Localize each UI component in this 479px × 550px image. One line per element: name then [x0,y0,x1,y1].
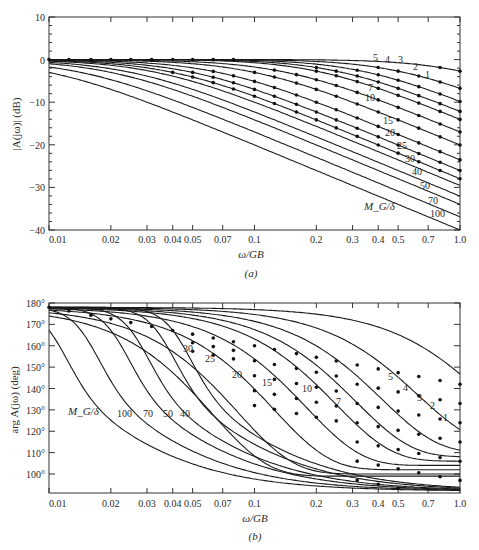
x-tick-label: 0.4 [372,498,385,509]
x-tick-label: 0.4 [372,234,385,245]
curve-b-5 [49,308,460,461]
series-label-b: 40 [180,408,190,419]
series-label-a: 10 [365,92,375,103]
series-label-b: 30 [183,343,193,354]
x-tick-label: 0.7 [422,498,435,509]
y-tick-label: 110° [26,448,45,459]
x-tick-label: 0.02 [102,498,120,509]
x-tick-label: 0.04 [164,234,182,245]
panel-a: 100−10−20−30−40 0.010.020.030.040.050.07… [10,12,466,280]
panel-b: 180°170°160°150°140°130°120°110°100° 0.0… [8,298,466,543]
series-label-b: 7 [336,396,341,407]
series-label-b: 4 [403,382,408,393]
y-tick-label: −30 [29,182,45,193]
x-tick-label: 0.07 [214,498,232,509]
x-tick-label: 0.01 [49,234,67,245]
x-tick-label: 0.01 [49,498,67,509]
x-tick-label: 0.7 [422,234,435,245]
x-tick-label: 0.04 [164,498,182,509]
x-tick-label: 0.2 [310,234,323,245]
plot-a-y-ticks: 100−10−20−30−40 [29,12,460,236]
y-tick-label: −40 [29,225,45,236]
y-tick-label: −20 [29,140,45,151]
series-label-b: 70 [143,408,153,419]
series-label-a: 25 [397,140,407,151]
series-label-a: 70 [428,195,438,206]
x-tick-label: 0.5 [392,234,405,245]
plot-a-x-ticks: 0.010.020.030.040.050.070.10.20.30.40.50… [49,17,466,245]
series-label-b: 15 [262,377,272,388]
y-tick-label: 100° [26,469,45,480]
plot-b-x-ticks: 0.010.020.030.040.050.070.10.20.30.40.50… [49,303,466,509]
y-tick-label: 10 [35,12,45,23]
series-label-b: 3 [417,392,422,403]
x-tick-label: 0.1 [248,498,261,509]
plot-b-curves [47,305,462,490]
y-tick-label: −10 [29,97,45,108]
y-tick-label: 140° [26,384,45,395]
curve-b-70 [49,310,460,490]
plot-b-caption: (b) [249,530,262,543]
x-tick-label: 0.03 [138,498,156,509]
x-tick-label: 0.03 [138,234,156,245]
plot-b-xlabel: ω/GB [242,512,268,524]
series-label-a: 50 [420,180,430,191]
y-tick-label: 120° [26,426,45,437]
series-label-a: 20 [385,127,395,138]
y-tick-label: 130° [26,405,45,416]
plot-a-frame [49,17,460,230]
series-label-a: 5 [373,52,378,63]
series-label-b: 2 [430,400,435,411]
series-label-a: 4 [385,54,390,65]
y-tick-label: 150° [26,362,45,373]
x-tick-label: 0.02 [102,234,120,245]
plot-a-ylabel: |A(jω)| (dB) [10,97,23,150]
series-label-b: 25 [205,353,215,364]
series-label-a: 1 [425,69,430,80]
series-label-a: 100 [430,208,445,219]
series-label-a: 3 [398,54,403,65]
series-label-b: 50 [163,408,173,419]
x-tick-label: 0.05 [184,498,202,509]
series-label-a: 40 [412,166,422,177]
curve-b-20 [49,316,460,476]
y-tick-label: 160° [26,341,45,352]
x-tick-label: 0.07 [214,234,232,245]
x-tick-label: 1.0 [454,234,467,245]
y-tick-label: 170° [26,319,45,330]
plot-a-param-label: M_G/δ [363,200,396,212]
series-label-b: 5 [388,371,393,382]
series-label-b: 20 [232,369,242,380]
plot-b-ylabel: arg A(jω) (deg) [8,366,21,434]
x-tick-label: 0.05 [184,234,202,245]
y-tick-label: 180° [26,298,45,309]
y-tick-label: 0 [40,55,45,66]
series-label-b: 100 [117,408,132,419]
series-label-a: 15 [383,115,393,126]
figure: 100−10−20−30−40 0.010.020.030.040.050.07… [0,0,479,550]
series-label-a: 2 [413,61,418,72]
x-tick-label: 0.3 [346,498,359,509]
x-tick-label: 1.0 [454,498,467,509]
series-label-a: 30 [405,153,415,164]
x-tick-label: 0.1 [248,234,261,245]
plot-a-caption: (a) [245,267,258,280]
x-tick-label: 0.3 [346,234,359,245]
plot-b-param-label: M_G/δ [67,405,100,417]
series-label-b: 1 [443,412,448,423]
x-tick-label: 0.2 [310,498,323,509]
plot-a-xlabel: ω/GB [238,248,264,260]
x-tick-label: 0.5 [392,498,405,509]
series-label-b: 10 [302,383,312,394]
